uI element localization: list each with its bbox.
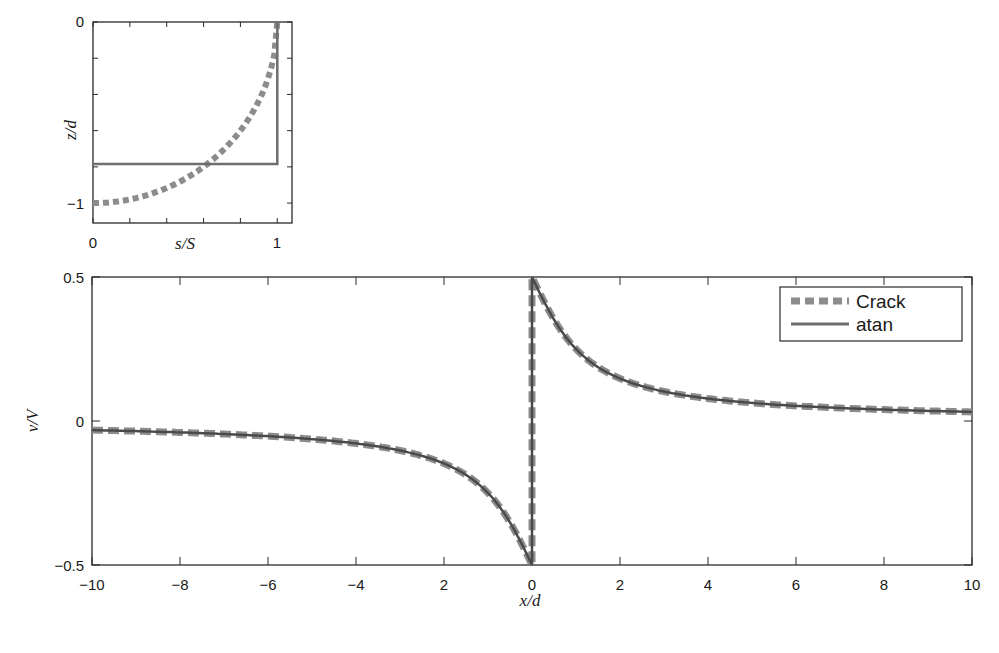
main-y-tick-top: 0.5 bbox=[63, 269, 84, 286]
figure: 0 1 0 −1 s/S z/d 0.5 0 −0.5 −10−8−6−4202… bbox=[0, 0, 999, 653]
main-x-tick-label: −6 bbox=[259, 576, 276, 593]
inset-x-tick-1: 1 bbox=[273, 234, 281, 251]
inset-y-axis-label: z/d bbox=[61, 120, 80, 141]
main-x-tick-label: 2 bbox=[616, 576, 624, 593]
inset-axes-box bbox=[93, 22, 292, 223]
main-y-tick-zero: 0 bbox=[76, 413, 84, 430]
main-x-tick-label: 4 bbox=[704, 576, 712, 593]
main-y-tick-bottom: −0.5 bbox=[54, 557, 84, 574]
main-x-tick-label: 2 bbox=[440, 576, 448, 593]
legend-atan-label: atan bbox=[856, 314, 893, 335]
main-plot: 0.5 0 −0.5 −10−8−6−420246810 x/d v/V Cra… bbox=[23, 269, 980, 610]
main-x-tick-label: 6 bbox=[792, 576, 800, 593]
main-x-tick-label: 10 bbox=[964, 576, 981, 593]
main-x-tick-label: 8 bbox=[880, 576, 888, 593]
main-y-axis-label: v/V bbox=[23, 407, 42, 432]
inset-y-tick-minus1: −1 bbox=[67, 195, 84, 212]
inset-plot: 0 1 0 −1 s/S z/d bbox=[61, 13, 292, 253]
main-x-tick-label: −8 bbox=[171, 576, 188, 593]
inset-x-tick-0: 0 bbox=[89, 234, 97, 251]
inset-y-tick-0: 0 bbox=[76, 13, 84, 30]
main-x-tick-label: −4 bbox=[347, 576, 364, 593]
legend-crack-label: Crack bbox=[856, 291, 906, 312]
main-x-tick-label: −10 bbox=[79, 576, 104, 593]
legend: Crack atan bbox=[780, 287, 962, 341]
main-x-axis-label: x/d bbox=[519, 591, 541, 610]
inset-x-axis-label: s/S bbox=[175, 234, 195, 253]
